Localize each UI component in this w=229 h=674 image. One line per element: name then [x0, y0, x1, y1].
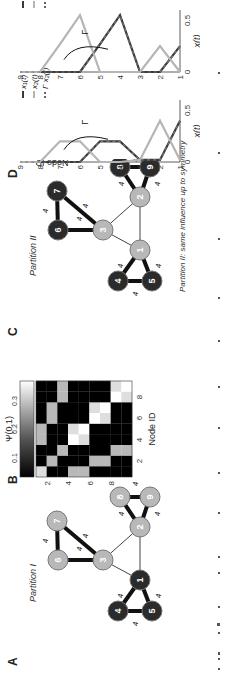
heatmap-cell	[79, 413, 90, 424]
svg-text:1: 1	[135, 247, 145, 252]
svg-text:1: 1	[176, 164, 185, 169]
node-8: 8	[115, 494, 125, 499]
heatmap-cell	[89, 434, 100, 445]
node-4: 4	[113, 608, 123, 613]
heatmap-cell	[36, 413, 47, 424]
node-dynamics-plots: Node ID 12345678900.5x(t)x₁(t)x₂(t)Γ x₂(…	[0, 0, 200, 180]
svg-text:4: 4	[131, 621, 140, 626]
heatmap-xlabel: Node ID	[147, 412, 157, 446]
heatmap-cell	[89, 391, 100, 402]
heatmap-cell	[47, 455, 58, 466]
svg-text:x(t): x(t)	[192, 35, 200, 49]
node-1: 1	[135, 577, 145, 582]
node-3: 3	[98, 557, 108, 562]
svg-text:9: 9	[16, 74, 25, 79]
node-2: 2	[135, 524, 145, 529]
heatmap-cell	[47, 413, 58, 424]
heatmap-cell	[111, 434, 122, 445]
heatmap-grid	[36, 381, 132, 477]
heatmap-cell	[47, 391, 58, 402]
svg-text:4: 4	[131, 291, 140, 296]
heatmap-cell	[100, 445, 111, 456]
heatmap-cell	[79, 455, 90, 466]
heatmap-cell	[68, 423, 79, 434]
heatmap-cell	[57, 455, 68, 466]
heatmap-cell	[121, 445, 132, 456]
heatmap-psi: Ψ(0.1) 0.1 0.2 0.3 2468 2468 Node ID Nod…	[0, 324, 215, 494]
svg-text:9: 9	[16, 164, 25, 169]
heatmap-cell	[47, 423, 58, 434]
heatmap-cell	[79, 402, 90, 413]
heatmap-cell	[79, 445, 90, 456]
heatmap-cell	[121, 423, 132, 434]
heatmap-cell	[100, 434, 111, 445]
svg-text:Γ: Γ	[80, 30, 90, 35]
heatmap-cell	[36, 391, 47, 402]
svg-text:0: 0	[183, 159, 192, 164]
svg-text:0.3: 0.3	[11, 396, 18, 406]
heatmap-cell	[111, 381, 122, 392]
svg-text:6: 6	[76, 74, 85, 79]
heatmap-cell	[121, 455, 132, 466]
heatmap-cell	[57, 402, 68, 413]
svg-text:5: 5	[147, 278, 157, 283]
heatmap-cell	[121, 466, 132, 477]
heatmap-cell	[36, 423, 47, 434]
heatmap-cell	[111, 402, 122, 413]
heatmap-cell	[111, 445, 122, 456]
heatmap-cell	[111, 413, 122, 424]
svg-text:4: 4	[81, 533, 90, 538]
heatmap-cell	[68, 391, 79, 402]
svg-text:6: 6	[53, 227, 63, 232]
heatmap-cell	[89, 466, 100, 477]
colorbar	[20, 381, 34, 477]
heatmap-cell	[47, 434, 58, 445]
heatmap-cell	[121, 391, 132, 402]
heatmap-cell	[57, 466, 68, 477]
heatmap-cell	[57, 413, 68, 424]
heatmap-cell	[100, 413, 111, 424]
svg-text:0.1: 0.1	[11, 453, 18, 463]
svg-text:6: 6	[76, 164, 85, 169]
node-9: 9	[145, 494, 155, 499]
heatmap-cell	[89, 381, 100, 392]
heatmap-cell	[89, 423, 100, 434]
heatmap-cell	[89, 455, 100, 466]
heatmap-cell	[79, 423, 90, 434]
heatmap-cell	[36, 455, 47, 466]
heatmap-cell	[68, 466, 79, 477]
svg-text:3: 3	[136, 74, 145, 79]
heatmap-cell	[57, 391, 68, 402]
svg-text:8: 8	[36, 74, 45, 79]
svg-text:Γ: Γ	[80, 120, 90, 125]
svg-text:0.5: 0.5	[183, 14, 192, 26]
heatmap-cell	[111, 391, 122, 402]
svg-text:7: 7	[52, 188, 62, 193]
svg-text:4: 4	[117, 181, 126, 186]
svg-text:0: 0	[183, 69, 192, 74]
heatmap-cell	[57, 381, 68, 392]
heatmap-cell	[36, 466, 47, 477]
dynamics-plot-x1-x2: 12345678900.5x(t)x₁(t)x₂(t)Γ x₂(t)Γ	[16, 67, 200, 169]
svg-text:2: 2	[135, 458, 144, 463]
svg-text:2: 2	[135, 194, 145, 199]
svg-text:4: 4	[116, 263, 125, 268]
heatmap-cell	[111, 466, 122, 477]
node-6: 6	[53, 557, 63, 562]
svg-text:4: 4	[75, 216, 84, 221]
heatmap-cell	[79, 434, 90, 445]
svg-text:7: 7	[56, 164, 65, 169]
heatmap-cell	[47, 402, 58, 413]
svg-text:3: 3	[98, 227, 108, 232]
figure: A Partition I 444 444 444 1	[0, 0, 229, 674]
heatmap-cell	[79, 466, 90, 477]
svg-text:2: 2	[43, 480, 52, 485]
svg-text:8: 8	[107, 480, 116, 485]
heatmap-cell	[36, 434, 47, 445]
svg-text:8: 8	[36, 164, 45, 169]
dynamics-plot-x4-x6: 12345678900.5x(t)x₄(t)x₆(t)Γ x₆(t)Γ	[16, 0, 200, 79]
svg-text:4: 4	[153, 511, 162, 516]
svg-text:4: 4	[116, 593, 125, 598]
heatmap-cell	[100, 391, 111, 402]
heatmap-cell	[100, 455, 111, 466]
